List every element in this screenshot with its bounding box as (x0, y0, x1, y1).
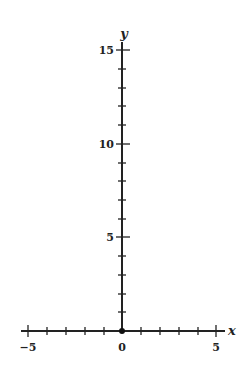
x-tick-label-0: 0 (118, 341, 126, 354)
x-tick-label-5: 5 (212, 341, 220, 354)
y-tick-label-10: 10 (99, 138, 115, 151)
origin-point (119, 328, 125, 334)
coordinate-plane: −5 0 5 5 10 15 x y (0, 0, 247, 375)
x-tick-label-minus5: −5 (20, 341, 37, 354)
y-tick-label-5: 5 (106, 231, 114, 244)
x-axis-label: x (227, 323, 236, 338)
y-axis-label: y (119, 26, 129, 41)
y-tick-label-15: 15 (99, 44, 114, 57)
